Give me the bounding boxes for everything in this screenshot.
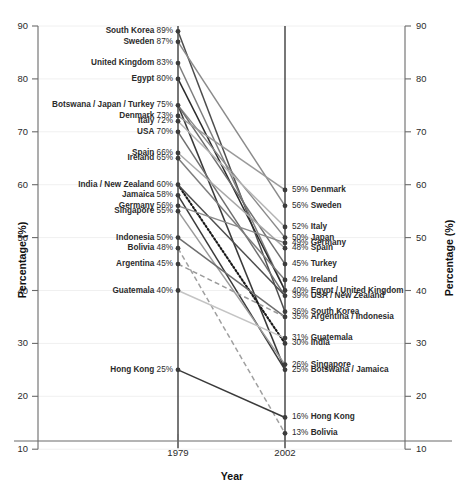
- series-line-sweden: [178, 42, 285, 206]
- y-tick-label-left-80: 80: [8, 74, 28, 83]
- y-tick-label-left-10: 10: [8, 444, 28, 453]
- left-label-name: Argentina: [116, 259, 154, 268]
- endpoint-marker-right: [283, 336, 288, 341]
- left-label-name: Hong Kong: [110, 365, 154, 374]
- right-label-percent: 42%: [292, 275, 311, 284]
- slope-chart-canvas: [0, 0, 466, 492]
- series-line-denmark: [178, 116, 285, 190]
- left-label-percent: 60%: [154, 180, 173, 189]
- right-label-ireland: 42% Ireland: [292, 276, 338, 284]
- right-label-percent: 13%: [292, 428, 311, 437]
- right-label-name: India: [311, 338, 330, 347]
- right-label-name: Botswana / Jamaica: [311, 365, 389, 374]
- y-tick-label-left-20: 20: [8, 392, 28, 401]
- endpoint-marker-left: [176, 203, 181, 208]
- endpoint-marker-left: [176, 39, 181, 44]
- endpoint-marker-left: [176, 182, 181, 187]
- left-label-percent: 83%: [154, 58, 173, 67]
- endpoint-marker-left: [176, 288, 181, 293]
- right-label-name: Argentina / Indonesia: [311, 312, 394, 321]
- endpoint-marker-left: [176, 262, 181, 267]
- right-label-usa-new-zealand: 39% USA / New Zealand: [292, 292, 385, 300]
- left-label-percent: 70%: [154, 127, 173, 136]
- endpoint-marker-right: [283, 188, 288, 193]
- x-tick-2002: 2002: [274, 447, 295, 458]
- right-label-name: Italy: [311, 222, 327, 231]
- endpoint-marker-right: [283, 341, 288, 346]
- endpoint-marker-right: [283, 225, 288, 230]
- right-label-percent: 35%: [292, 312, 311, 321]
- left-label-name: Italy: [138, 116, 154, 125]
- left-label-united-kingdom: United Kingdom 83%: [91, 59, 173, 67]
- left-label-argentina: Argentina 45%: [116, 260, 173, 268]
- left-label-name: Guatemala: [112, 285, 154, 294]
- endpoint-marker-right: [283, 362, 288, 367]
- right-label-name: Turkey: [311, 259, 337, 268]
- left-label-singapore: Singapore 55%: [114, 207, 173, 215]
- y-tick-label-right-90: 90: [416, 21, 426, 30]
- right-label-denmark: 59% Denmark: [292, 186, 346, 194]
- right-label-percent: 16%: [292, 412, 311, 421]
- endpoint-marker-left: [176, 77, 181, 82]
- endpoint-marker-left: [176, 156, 181, 161]
- y-axis-left-title: Percentage (%): [16, 222, 28, 299]
- endpoint-marker-left: [176, 114, 181, 119]
- endpoint-marker-left: [176, 129, 181, 134]
- left-label-percent: 72%: [154, 116, 173, 125]
- series-line-hong-kong: [178, 370, 285, 418]
- right-label-india: 30% India: [292, 339, 330, 347]
- x-tick-1979: 1979: [167, 447, 188, 458]
- left-label-name: Indonesia: [116, 232, 154, 241]
- y-tick-label-left-30: 30: [8, 339, 28, 348]
- y-tick-label-left-70: 70: [8, 127, 28, 136]
- right-label-turkey: 45% Turkey: [292, 260, 337, 268]
- left-label-south-korea: South Korea 89%: [106, 27, 173, 35]
- right-label-percent: 25%: [292, 365, 311, 374]
- left-label-egypt: Egypt 80%: [132, 75, 173, 83]
- endpoint-marker-right: [283, 431, 288, 436]
- left-label-percent: 40%: [154, 285, 173, 294]
- left-label-india-new-zealand: India / New Zealand 60%: [78, 181, 173, 189]
- left-label-indonesia: Indonesia 50%: [116, 233, 173, 241]
- left-label-sweden: Sweden 87%: [123, 38, 173, 46]
- right-label-percent: 30%: [292, 338, 311, 347]
- left-label-name: Bolivia: [127, 243, 154, 252]
- endpoint-marker-right: [283, 262, 288, 267]
- left-label-italy: Italy 72%: [138, 117, 173, 125]
- endpoint-marker-right: [283, 293, 288, 298]
- right-label-name: Hong Kong: [311, 412, 355, 421]
- right-label-bolivia: 13% Bolivia: [292, 429, 338, 437]
- left-label-percent: 50%: [154, 232, 173, 241]
- left-label-name: Singapore: [114, 206, 154, 215]
- endpoint-marker-left: [176, 119, 181, 124]
- endpoint-marker-left: [176, 29, 181, 34]
- right-label-argentina-indonesia: 35% Argentina / Indonesia: [292, 313, 394, 321]
- right-label-spain: 48% Spain: [292, 244, 333, 252]
- y-tick-label-left-90: 90: [8, 21, 28, 30]
- endpoint-marker-left: [176, 235, 181, 240]
- endpoint-marker-left: [176, 61, 181, 66]
- y-tick-label-right-80: 80: [416, 74, 426, 83]
- y-tick-label-right-50: 50: [416, 233, 426, 242]
- left-label-name: Botswana / Japan / Turkey: [52, 100, 154, 109]
- left-label-jamaica: Jamaica 58%: [122, 191, 173, 199]
- right-label-percent: 48%: [292, 243, 311, 252]
- left-label-percent: 89%: [154, 26, 173, 35]
- left-label-name: USA: [137, 127, 154, 136]
- left-label-percent: 48%: [154, 243, 173, 252]
- right-label-percent: 52%: [292, 222, 311, 231]
- right-label-botswana-jamaica: 25% Botswana / Jamaica: [292, 366, 389, 374]
- left-label-name: United Kingdom: [91, 58, 154, 67]
- right-label-percent: 45%: [292, 259, 311, 268]
- right-label-name: Denmark: [311, 185, 346, 194]
- endpoint-marker-left: [176, 367, 181, 372]
- right-label-hong-kong: 16% Hong Kong: [292, 413, 355, 421]
- endpoint-marker-left: [176, 151, 181, 156]
- left-label-name: Egypt: [132, 74, 155, 83]
- series-line-india: [178, 185, 285, 344]
- left-label-name: Sweden: [123, 37, 154, 46]
- left-label-bolivia: Bolivia 48%: [127, 244, 173, 252]
- left-label-usa: USA 70%: [137, 128, 173, 136]
- left-label-name: Ireland: [127, 153, 154, 162]
- y-tick-label-right-70: 70: [416, 127, 426, 136]
